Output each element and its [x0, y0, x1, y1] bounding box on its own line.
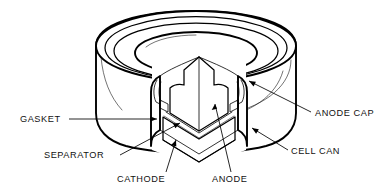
battery-cutaway-drawing: GASKETSEPARATORCATHODEANODEANODE CAPCELL…: [0, 0, 390, 192]
label-anode: ANODE: [212, 174, 247, 184]
label-separator: SEPARATOR: [44, 150, 104, 160]
battery-cutaway-figure: GASKETSEPARATORCATHODEANODEANODE CAPCELL…: [0, 0, 390, 192]
label-cathode: CATHODE: [117, 174, 165, 184]
label-anode-cap: ANODE CAP: [315, 108, 374, 118]
cutaway-section: [151, 56, 247, 168]
label-gasket: GASKET: [20, 114, 61, 124]
label-cell-can: CELL CAN: [291, 146, 340, 156]
